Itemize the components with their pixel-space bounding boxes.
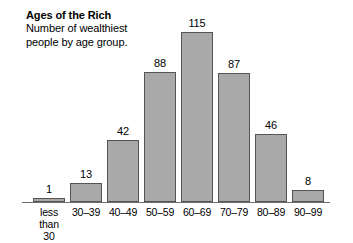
- bar-value-label: 88: [136, 58, 184, 69]
- bar-value-label: 42: [99, 126, 147, 137]
- x-axis-line: [22, 202, 330, 203]
- bar-value-label: 8: [284, 176, 332, 187]
- bar-value-label: 13: [62, 169, 110, 180]
- x-axis-category-label: 90–99: [286, 206, 330, 218]
- x-axis-category-line: 90–99: [286, 206, 330, 218]
- bar-value-label: 1: [25, 184, 73, 195]
- bar-value-label: 87: [210, 59, 258, 70]
- bar: [144, 72, 176, 202]
- bar: [33, 198, 65, 202]
- bar-value-label: 46: [247, 120, 295, 131]
- x-axis-category-line: than: [27, 218, 71, 230]
- bar: [292, 190, 324, 202]
- bar: [107, 140, 139, 202]
- chart-figure: Ages of the Rich Number of wealthiest pe…: [0, 0, 353, 243]
- x-axis-category-line: 30: [27, 230, 71, 242]
- bar: [218, 73, 250, 202]
- bar-value-label: 115: [173, 18, 221, 29]
- bar: [255, 134, 287, 202]
- bar: [70, 183, 102, 202]
- plot-area: 1lessthan301330–394240–498850–5911560–69…: [0, 0, 353, 243]
- bar: [181, 32, 213, 202]
